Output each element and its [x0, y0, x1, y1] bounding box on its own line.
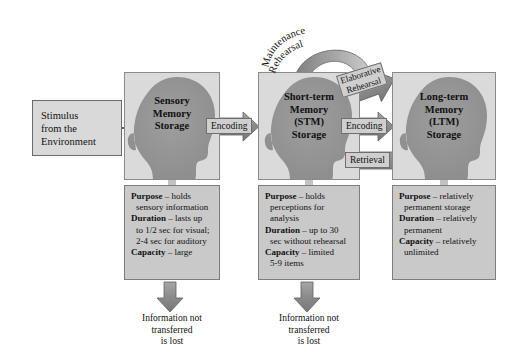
stimulus-line-3: Environment [41, 135, 96, 148]
sensory-purpose-val: – holds [163, 191, 192, 201]
stm-lost-arrow [294, 282, 320, 312]
stm-purpose-cont: perceptions for [265, 202, 355, 213]
ltm-capacity-val: – relatively [434, 236, 477, 246]
stimulus-box: Stimulus from the Environment [32, 100, 122, 156]
sensory-memory-label: Sensory Memory Storage [125, 95, 219, 133]
stimulus-line-2: from the [41, 122, 96, 135]
encoding-label-2: Encoding [341, 118, 387, 134]
sensory-label-line-1: Sensory [125, 95, 219, 108]
long-term-memory-label: Long-term Memory (LTM) Storage [393, 91, 495, 141]
ltm-duration-val: – relatively [434, 213, 477, 223]
stm-duration-key: Duration [265, 225, 300, 235]
ltm-capacity-cont: unlimited [399, 247, 491, 258]
stm-capacity-cont: 5-9 items [265, 258, 355, 269]
ltm-description-box: Purpose – relatively permanent storage D… [392, 185, 496, 280]
stm-lost-line-3: is lost [244, 336, 374, 348]
ltm-purpose-cont: permanent storage [399, 202, 491, 213]
sensory-purpose-key: Purpose [131, 191, 163, 201]
sensory-label-line-3: Storage [125, 120, 219, 133]
sensory-duration-val: – lasts up [166, 213, 202, 223]
stm-purpose-key: Purpose [265, 191, 297, 201]
ltm-label-line-4: Storage [393, 129, 495, 142]
ltm-label-line-1: Long-term [393, 91, 495, 104]
sensory-purpose-cont: sensory information [131, 202, 215, 213]
sensory-description-box: Purpose – holds sensory information Dura… [124, 185, 220, 280]
sensory-capacity-val: – large [166, 247, 193, 257]
ltm-label-line-3: (LTM) [393, 116, 495, 129]
long-term-memory-panel: Long-term Memory (LTM) Storage [392, 72, 496, 180]
encoding-label-1: Encoding [206, 118, 252, 134]
ltm-purpose-key: Purpose [399, 191, 431, 201]
ltm-duration-cont-1: permanent [399, 225, 491, 236]
retrieval-label: Retrieval [345, 152, 390, 168]
stm-capacity-val: – limited [300, 247, 335, 257]
sensory-duration-cont-2: 2-4 sec for auditory [131, 236, 215, 247]
sensory-duration-cont-1: to 1/2 sec for visual; [131, 225, 215, 236]
sensory-lost-caption: Information not transferred is lost [107, 313, 237, 348]
stm-duration-cont-1: sec without rehearsal [265, 236, 355, 247]
sensory-capacity-key: Capacity [131, 247, 166, 257]
sensory-lost-arrow [157, 282, 183, 312]
ltm-capacity-key: Capacity [399, 236, 434, 246]
stm-purpose-val: – holds [297, 191, 326, 201]
stm-lost-line-1: Information not [244, 313, 374, 325]
diagram-artwork [0, 0, 515, 361]
ltm-purpose-val: – relatively [431, 191, 474, 201]
sensory-lost-line-2: transferred [107, 325, 237, 337]
stm-lost-line-2: transferred [244, 325, 374, 337]
ltm-label-line-2: Memory [393, 104, 495, 117]
stm-lost-caption: Information not transferred is lost [244, 313, 374, 348]
stm-description-box: Purpose – holds perceptions for analysis… [258, 185, 360, 280]
stm-purpose-cont-2: analysis [265, 213, 355, 224]
memory-model-diagram: Stimulus from the Environment Sensory Me… [0, 0, 515, 361]
ltm-duration-key: Duration [399, 213, 434, 223]
stm-capacity-key: Capacity [265, 247, 300, 257]
maintenance-rehearsal-label: Maintenance Rehearsal [262, 18, 392, 78]
stimulus-line-1: Stimulus [41, 109, 96, 122]
sensory-lost-line-1: Information not [107, 313, 237, 325]
sensory-duration-key: Duration [131, 213, 166, 223]
stm-duration-val: – up to 30 [300, 225, 339, 235]
sensory-lost-line-3: is lost [107, 336, 237, 348]
sensory-label-line-2: Memory [125, 108, 219, 121]
stm-label-line-2: Memory [259, 104, 359, 117]
